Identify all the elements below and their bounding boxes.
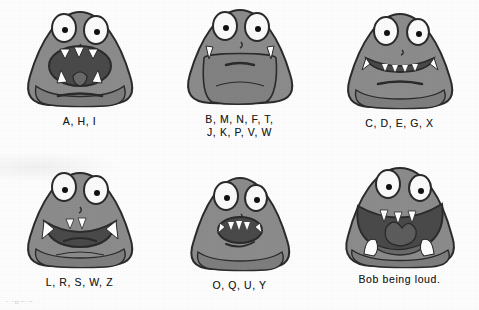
mouth-shape-a-h-i: A, H, I: [0, 4, 159, 128]
right-pupil: [416, 31, 422, 37]
figure-sheet: A, H, I B, M, N, F, T, J,: [0, 0, 479, 310]
caption-c-d-e-g-x: C, D, E, G, X: [320, 117, 479, 130]
caption-b-m-n-f-t-j-k-p-v-w: B, M, N, F, T, J, K, P, V, W: [160, 113, 319, 138]
mouth-shape-b-m-n-f-t-j-k-p-v-w: B, M, N, F, T, J, K, P, V, W: [160, 2, 319, 138]
mouth-shape-o-q-u-y: O, Q, U, Y: [160, 168, 319, 292]
left-eye: [52, 173, 76, 201]
caption-l-r-s-w-z: L, R, S, W, Z: [0, 276, 159, 289]
bob-drawing: [330, 162, 470, 274]
bob-illustration-c-d-e-g-x: [320, 6, 479, 116]
mouth-closed-jaw: [203, 54, 276, 105]
clipped-caption-strip: Figure: [0, 301, 479, 310]
left-eye: [376, 170, 400, 198]
mouth-open-small: [218, 217, 262, 243]
bob-drawing: [330, 6, 470, 114]
right-pupil: [254, 197, 260, 203]
mouth-shape-c-d-e-g-x: C, D, E, G, X: [320, 6, 479, 130]
caption-a-h-i: A, H, I: [0, 115, 159, 128]
mouth-shape-bob-being-loud: Bob being loud.: [320, 162, 479, 286]
right-eye: [409, 175, 431, 201]
bob-drawing: [170, 2, 310, 110]
caption-bob-being-loud: Bob being loud.: [320, 273, 479, 286]
left-pupil: [62, 187, 68, 193]
right-pupil: [255, 26, 261, 32]
right-pupil: [94, 190, 100, 196]
caption-o-q-u-y: O, Q, U, Y: [160, 279, 319, 292]
left-pupil: [384, 30, 390, 36]
throat-uvula: [385, 222, 416, 246]
mouth-shape-grid: A, H, I B, M, N, F, T, J,: [0, 0, 479, 310]
left-pupil: [223, 25, 229, 31]
clipped-caption-text: Figure: [6, 301, 33, 304]
bob-illustration-l-r-s-w-z: [0, 165, 159, 275]
right-eye: [84, 176, 108, 204]
mouth-shape-l-r-s-w-z: L, R, S, W, Z: [0, 165, 159, 289]
left-pupil: [62, 27, 68, 33]
bob-drawing: [10, 4, 150, 114]
left-pupil: [386, 184, 392, 190]
bob-drawing: [10, 165, 150, 273]
bob-illustration-o-q-u-y: [160, 168, 319, 278]
bob-illustration-a-h-i: [0, 4, 159, 114]
left-pupil: [224, 195, 230, 201]
right-pupil: [418, 188, 424, 194]
right-pupil: [94, 29, 100, 35]
bob-illustration-b-m-n-f-t: [160, 2, 319, 112]
bob-illustration-bob-being-loud: [320, 162, 479, 272]
bob-drawing: [170, 168, 310, 276]
